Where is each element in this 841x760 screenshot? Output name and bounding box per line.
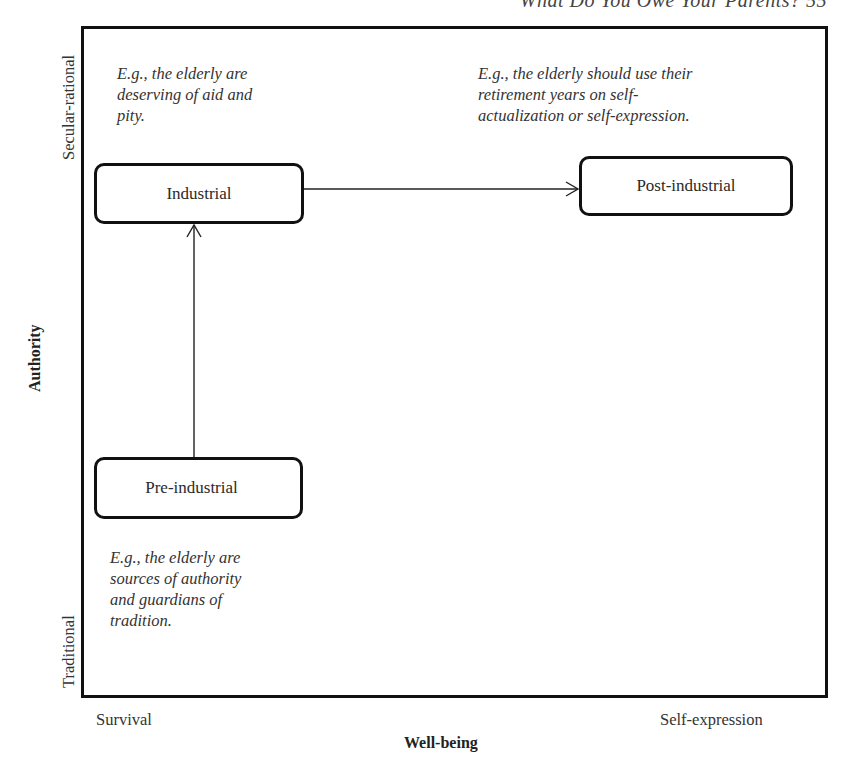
node-pre-industrial: Pre-industrial <box>94 457 303 519</box>
note-line: E.g., the elderly are <box>117 63 252 84</box>
x-axis-title: Well-being <box>404 734 478 752</box>
x-axis-low-label: Survival <box>96 710 152 730</box>
note-line: pity. <box>117 105 252 126</box>
note-line: sources of authority <box>110 568 241 589</box>
note-line: E.g., the elderly should use their <box>478 63 692 84</box>
x-axis-high-label: Self-expression <box>660 710 763 730</box>
note-line: deserving of aid and <box>117 84 252 105</box>
node-label: Industrial <box>166 184 231 204</box>
note-line: actualization or self-expression. <box>478 105 692 126</box>
node-post-industrial: Post-industrial <box>579 156 793 216</box>
note-industrial: E.g., the elderly are deserving of aid a… <box>117 63 252 126</box>
note-post-industrial: E.g., the elderly should use their retir… <box>478 63 692 126</box>
arrow-industrial-to-post <box>304 182 578 196</box>
arrow-pre-to-industrial <box>187 225 201 457</box>
note-line: E.g., the elderly are <box>110 547 241 568</box>
y-axis-high-label: Secular-rational <box>59 55 79 160</box>
note-line: retirement years on self- <box>478 84 692 105</box>
node-industrial: Industrial <box>94 163 304 224</box>
note-line: and guardians of <box>110 589 241 610</box>
y-axis-title: Authority <box>26 324 44 392</box>
node-label: Post-industrial <box>636 176 735 196</box>
y-axis-low-label: Traditional <box>59 615 79 688</box>
node-label: Pre-industrial <box>145 478 238 498</box>
note-line: tradition. <box>110 610 241 631</box>
note-pre-industrial: E.g., the elderly are sources of authori… <box>110 547 241 631</box>
